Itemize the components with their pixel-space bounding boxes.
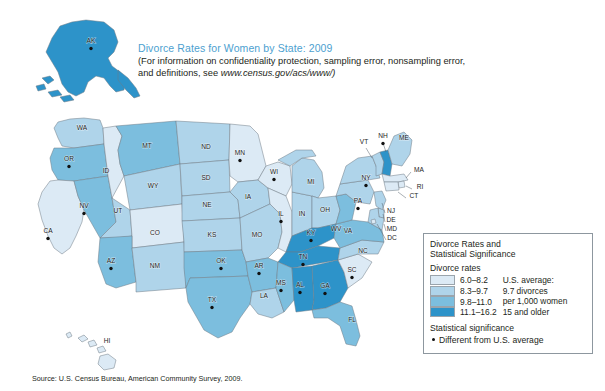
significance-dot-GA bbox=[323, 292, 326, 295]
state-label-ID: ID bbox=[103, 167, 110, 174]
legend-title: Divorce Rates and Statistical Significan… bbox=[430, 239, 586, 260]
state-label-SC: SC bbox=[347, 266, 356, 273]
legend-bin-label-4: 11.1–16.2 bbox=[460, 307, 497, 317]
state-label-ND: ND bbox=[201, 143, 211, 150]
state-label-AL: AL bbox=[296, 281, 304, 288]
legend-bin-2: 8.3–9.7 bbox=[430, 286, 497, 297]
state-label-LA: LA bbox=[260, 292, 269, 299]
legend-bin-1: 6.0–8.2 bbox=[430, 275, 497, 286]
state-label-RI: RI bbox=[417, 183, 424, 190]
legend-rates-heading: Divorce rates bbox=[430, 263, 586, 273]
significance-dot-WI bbox=[272, 178, 275, 181]
legend-bin-4: 11.1–16.2 bbox=[430, 307, 497, 318]
state-label-CO: CO bbox=[150, 229, 160, 236]
state-label-OR: OR bbox=[64, 155, 74, 162]
state-AK[interactable] bbox=[46, 20, 126, 96]
legend-box: Divorce Rates and Statistical Significan… bbox=[423, 233, 593, 354]
significance-dot-CA bbox=[46, 237, 49, 240]
state-AK-panhandle bbox=[118, 70, 140, 98]
legend-ramp: 6.0–8.28.3–9.79.8–11.011.1–16.2 bbox=[430, 275, 497, 317]
legend-average-line-4: 15 and older bbox=[503, 307, 568, 318]
legend-swatch-3 bbox=[430, 296, 455, 306]
significance-dot-MN bbox=[238, 159, 241, 162]
legend-swatch-2 bbox=[430, 286, 455, 296]
significance-dot-AR bbox=[257, 272, 260, 275]
state-label-AR: AR bbox=[254, 262, 263, 269]
state-label-AZ: AZ bbox=[107, 257, 115, 264]
legend-bin-label-2: 8.3–9.7 bbox=[460, 286, 488, 296]
significance-dot-icon bbox=[432, 338, 435, 341]
legend-title-line-1: Divorce Rates and bbox=[430, 239, 501, 249]
state-label-HI: HI bbox=[104, 337, 111, 344]
source-note: Source: U.S. Census Bureau, American Com… bbox=[32, 374, 242, 383]
significance-dot-NV bbox=[82, 212, 85, 215]
state-NJ[interactable] bbox=[374, 191, 386, 210]
significance-dot-AK bbox=[89, 47, 92, 50]
state-label-TX: TX bbox=[208, 296, 217, 303]
state-label-PA: PA bbox=[354, 197, 363, 204]
state-label-MD: MD bbox=[387, 225, 397, 232]
state-label-NV: NV bbox=[79, 202, 89, 209]
state-OR[interactable] bbox=[50, 144, 108, 181]
significance-dot-NH bbox=[381, 142, 384, 145]
note-line-2-prefix: and definitions, see bbox=[138, 68, 221, 78]
state-label-WV: WV bbox=[331, 225, 342, 232]
legend-average-line-2: 9.7 divorces bbox=[503, 286, 568, 297]
state-label-MS: MS bbox=[276, 279, 286, 286]
state-label-MA: MA bbox=[414, 166, 424, 173]
state-label-IA: IA bbox=[245, 193, 252, 200]
state-label-IN: IN bbox=[299, 210, 306, 217]
state-CO[interactable] bbox=[130, 204, 184, 248]
state-label-OH: OH bbox=[320, 206, 330, 213]
state-label-DE: DE bbox=[386, 216, 396, 223]
legend-significance-item: Different from U.S. average bbox=[430, 335, 586, 345]
legend-bin-label-3: 9.8–11.0 bbox=[460, 297, 492, 307]
title-note: (For information on confidentiality prot… bbox=[138, 56, 538, 79]
legend-bin-3: 9.8–11.0 bbox=[430, 296, 497, 307]
state-label-VT: VT bbox=[360, 138, 368, 145]
legend-swatch-4 bbox=[430, 307, 455, 317]
state-label-ME: ME bbox=[399, 134, 409, 141]
significance-dot-IL bbox=[279, 220, 282, 223]
state-label-NY: NY bbox=[361, 174, 371, 181]
significance-dot-TN bbox=[301, 263, 304, 266]
state-label-SD: SD bbox=[201, 174, 210, 181]
legend-ramp-wrap: 6.0–8.28.3–9.79.8–11.011.1–16.2 U.S. ave… bbox=[430, 275, 586, 317]
state-label-MO: MO bbox=[252, 231, 263, 238]
state-DC[interactable] bbox=[371, 219, 376, 224]
state-label-KS: KS bbox=[208, 231, 217, 238]
state-AL[interactable] bbox=[292, 266, 314, 312]
significance-dot-OR bbox=[67, 165, 70, 168]
title-block: Divorce Rates for Women by State: 2009 (… bbox=[138, 42, 538, 79]
state-RI[interactable] bbox=[398, 181, 405, 188]
state-label-CA: CA bbox=[43, 227, 53, 234]
state-label-FL: FL bbox=[348, 316, 356, 323]
state-AZ[interactable] bbox=[98, 236, 136, 288]
state-label-GA: GA bbox=[320, 282, 330, 289]
legend-title-line-2: Statistical Significance bbox=[430, 249, 516, 259]
state-label-VA: VA bbox=[344, 227, 353, 234]
state-label-UT: UT bbox=[114, 207, 123, 214]
state-label-NH: NH bbox=[378, 132, 388, 139]
state-WA[interactable] bbox=[54, 118, 104, 148]
legend-swatch-1 bbox=[430, 275, 455, 285]
state-label-WA: WA bbox=[77, 124, 88, 131]
state-label-NE: NE bbox=[202, 201, 212, 208]
significance-dot-KY bbox=[309, 239, 312, 242]
legend-average-text: U.S. average:9.7 divorcesper 1,000 women… bbox=[503, 275, 568, 317]
state-label-TN: TN bbox=[299, 253, 308, 260]
page-title: Divorce Rates for Women by State: 2009 bbox=[138, 42, 538, 55]
state-label-AK: AK bbox=[87, 37, 96, 44]
state-label-MN: MN bbox=[235, 149, 245, 156]
significance-dot-PA bbox=[356, 207, 359, 210]
significance-dot-MS bbox=[279, 289, 282, 292]
state-label-MI: MI bbox=[307, 178, 314, 185]
state-label-OK: OK bbox=[216, 257, 226, 264]
state-label-IL: IL bbox=[278, 210, 284, 217]
legend-average-line-3: per 1,000 women bbox=[503, 296, 568, 307]
state-CT[interactable] bbox=[384, 182, 399, 191]
state-label-CT: CT bbox=[410, 192, 419, 199]
state-label-MT: MT bbox=[142, 142, 152, 149]
note-line-1: (For information on confidentiality prot… bbox=[138, 56, 465, 66]
state-TX[interactable] bbox=[186, 276, 252, 338]
